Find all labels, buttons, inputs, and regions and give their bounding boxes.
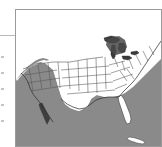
margin-text-fragment (1, 88, 4, 90)
margin-text-fragment (1, 120, 4, 122)
page-root (0, 0, 162, 147)
margin-text-fragment (1, 72, 4, 74)
margin-column (0, 0, 15, 147)
us-map-figure (15, 9, 162, 147)
margin-text-fragment (1, 56, 4, 58)
margin-text-fragment (1, 104, 4, 106)
us-map-graphic (15, 9, 162, 147)
margin-horizontal-rule (0, 35, 15, 36)
